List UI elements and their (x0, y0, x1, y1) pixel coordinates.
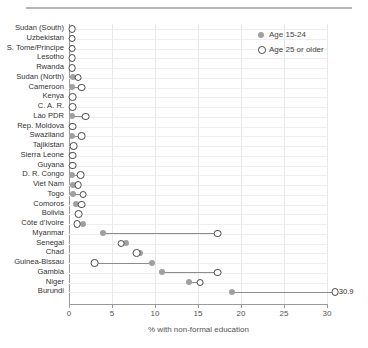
data-point-age-25-or-older[interactable] (69, 152, 77, 160)
data-point-age-15-24[interactable] (70, 191, 76, 197)
row-baseline (69, 58, 328, 59)
data-point-age-25-or-older[interactable] (214, 269, 222, 277)
data-point-age-15-24[interactable] (69, 133, 75, 139)
data-point-age-25-or-older[interactable] (68, 54, 76, 62)
row-baseline (69, 224, 328, 225)
x-axis-line (69, 304, 328, 305)
category-label: Cameroon (0, 82, 64, 92)
row-baseline (69, 244, 328, 245)
category-label: Togo (0, 189, 64, 199)
data-point-age-25-or-older[interactable] (73, 220, 81, 228)
row-baseline (69, 214, 328, 215)
category-label: Kenya (0, 91, 64, 101)
data-point-age-25-or-older[interactable] (69, 162, 77, 170)
category-label: Viet Nam (0, 179, 64, 189)
data-point-age-25-or-older[interactable] (68, 64, 76, 72)
row-baseline (69, 68, 328, 69)
row-baseline (69, 78, 328, 79)
data-point-age-25-or-older[interactable] (82, 113, 90, 121)
data-point-age-25-or-older[interactable] (78, 84, 86, 92)
row-baseline (69, 127, 328, 128)
category-label: Rep. Moldova (0, 121, 64, 131)
connector-line (94, 263, 152, 264)
connector-line (232, 292, 334, 293)
category-label: Sudan (South) (0, 23, 64, 33)
data-point-age-25-or-older[interactable] (77, 171, 85, 179)
legend-label-old: Age 25 or older (269, 45, 324, 54)
data-point-age-25-or-older[interactable] (79, 191, 87, 199)
row-baseline (69, 175, 328, 176)
data-point-age-15-24[interactable] (100, 230, 106, 236)
data-point-age-25-or-older[interactable] (196, 279, 204, 287)
data-point-age-25-or-older[interactable] (91, 259, 99, 267)
chart-row[interactable]: Burundi30.9 (0, 287, 368, 297)
data-point-value-label: 30.9 (339, 287, 354, 296)
data-point-age-25-or-older[interactable] (69, 123, 77, 131)
data-point-age-25-or-older[interactable] (69, 93, 77, 101)
category-label: Chad (0, 247, 64, 257)
data-point-age-25-or-older[interactable] (133, 249, 141, 257)
row-baseline (69, 146, 328, 147)
category-label: Uzbekistan (0, 33, 64, 43)
row-baseline (69, 205, 328, 206)
data-point-age-25-or-older[interactable] (74, 74, 82, 82)
data-point-age-25-or-older[interactable] (117, 240, 125, 248)
category-label: Bolivia (0, 208, 64, 218)
data-point-age-25-or-older[interactable] (69, 103, 77, 111)
x-axis-label: % with non-formal education (69, 325, 328, 334)
row-baseline (69, 88, 328, 89)
category-label: Burundi (0, 286, 64, 296)
row-baseline (69, 185, 328, 186)
data-point-age-25-or-older[interactable] (75, 210, 83, 218)
category-label: Guinea-Bissau (0, 257, 64, 267)
row-baseline (69, 97, 328, 98)
data-point-age-15-24[interactable] (69, 84, 75, 90)
data-point-age-25-or-older[interactable] (68, 45, 76, 53)
category-label: Sierra Leone (0, 150, 64, 160)
data-point-age-15-24[interactable] (229, 289, 235, 295)
data-point-age-15-24[interactable] (186, 279, 192, 285)
category-label: Sudan (North) (0, 72, 64, 82)
x-axis-tick-label: 5 (110, 309, 114, 318)
data-point-age-15-24[interactable] (149, 260, 155, 266)
category-label: Comoros (0, 199, 64, 209)
data-point-age-15-24[interactable] (69, 113, 75, 119)
row-baseline (69, 166, 328, 167)
category-label: Rwanda (0, 62, 64, 72)
connector-line (162, 272, 217, 273)
filled-circle-icon (258, 32, 264, 38)
legend-label-young: Age 15-24 (269, 30, 306, 39)
data-point-age-15-24[interactable] (69, 172, 75, 178)
data-point-age-25-or-older[interactable] (68, 35, 76, 43)
category-label: C. A. R. (0, 101, 64, 111)
data-point-age-25-or-older[interactable] (78, 132, 86, 140)
category-label: S. Tome/Principe (0, 43, 64, 53)
row-baseline (69, 136, 328, 137)
category-label: Lao PDR (0, 111, 64, 121)
open-circle-icon (258, 46, 266, 54)
chart-root: 051015202530Sudan (South)UzbekistanS. To… (0, 0, 368, 348)
category-label: Côte d’Ivoire (0, 218, 64, 228)
data-point-age-25-or-older[interactable] (68, 25, 76, 33)
x-axis-tick-label: 20 (237, 309, 246, 318)
category-label: Gambia (0, 267, 64, 277)
data-point-age-15-24[interactable] (159, 269, 165, 275)
data-point-age-25-or-older[interactable] (214, 230, 222, 238)
row-baseline (69, 117, 328, 118)
row-baseline (69, 253, 328, 254)
category-label: Senegal (0, 238, 64, 248)
connector-line (103, 233, 217, 234)
x-axis-tick-label: 10 (151, 309, 160, 318)
row-baseline (69, 156, 328, 157)
x-axis-tick-label: 30 (323, 309, 332, 318)
category-label: Niger (0, 277, 64, 287)
category-label: Myanmar (0, 228, 64, 238)
data-point-age-25-or-older[interactable] (74, 181, 82, 189)
x-axis-tick-label: 0 (67, 309, 71, 318)
x-axis-tick-label: 25 (280, 309, 289, 318)
x-axis-tick-label: 15 (194, 309, 203, 318)
category-label: Lesotho (0, 52, 64, 62)
data-point-age-25-or-older[interactable] (78, 201, 86, 209)
category-label: Swaziland (0, 130, 64, 140)
data-point-age-25-or-older[interactable] (70, 142, 78, 150)
